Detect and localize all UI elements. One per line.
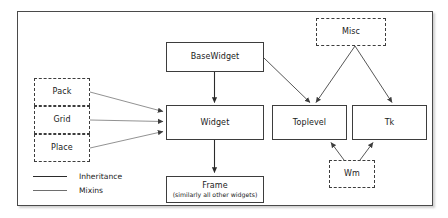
node-place[interactable]: Place: [34, 134, 90, 162]
edge-place-widget: [90, 132, 163, 149]
node-widget-label: Widget: [201, 118, 230, 127]
node-misc-label: Misc: [342, 27, 360, 36]
edge-basewidget-toplevel: [264, 58, 310, 103]
node-wm[interactable]: Wm: [329, 160, 375, 188]
legend-item-mixins: Mixins: [33, 186, 103, 195]
node-wm-label: Wm: [344, 169, 360, 178]
inheritance-line-icon: [33, 176, 67, 177]
node-place-label: Place: [51, 143, 73, 152]
node-widget[interactable]: Widget: [166, 105, 264, 140]
legend-item-inheritance: Inheritance: [33, 172, 122, 181]
edge-misc-tk: [355, 46, 392, 103]
node-toplevel[interactable]: Toplevel: [272, 105, 347, 140]
legend: Inheritance Mixins: [33, 172, 163, 202]
node-frame-label: Frame: [202, 181, 227, 190]
node-grid-label: Grid: [53, 115, 70, 124]
node-basewidget-label: BaseWidget: [191, 52, 240, 61]
edge-pack-widget: [90, 92, 163, 112]
edge-grid-widget: [90, 120, 163, 122]
node-basewidget[interactable]: BaseWidget: [166, 42, 264, 72]
edge-misc-toplevel: [316, 46, 355, 103]
diagram-canvas: BaseWidget Widget Frame (similarly all o…: [0, 0, 448, 218]
node-grid[interactable]: Grid: [34, 106, 90, 134]
legend-label-inheritance: Inheritance: [79, 172, 122, 181]
node-tk-label: Tk: [385, 118, 395, 127]
node-pack[interactable]: Pack: [34, 78, 90, 106]
node-tk[interactable]: Tk: [352, 105, 427, 140]
node-toplevel-label: Toplevel: [293, 118, 326, 127]
node-misc[interactable]: Misc: [316, 18, 386, 46]
node-frame-sublabel: (similarly all other widgets): [173, 191, 258, 198]
edge-wm-toplevel: [331, 143, 344, 161]
edge-wm-tk: [360, 143, 373, 161]
legend-label-mixins: Mixins: [79, 186, 103, 195]
node-frame[interactable]: Frame (similarly all other widgets): [166, 176, 264, 203]
node-pack-label: Pack: [53, 87, 72, 96]
mixins-line-icon: [33, 190, 67, 191]
